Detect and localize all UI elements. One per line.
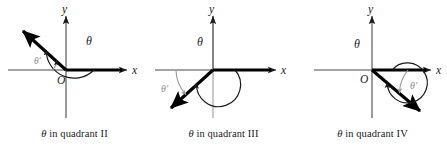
x-axis-label: x xyxy=(280,64,287,76)
terminal-side-ray xyxy=(23,31,66,70)
panel-caption: θ in quadrant III xyxy=(149,128,298,139)
panel-quadrant-4: θ θ′ O x y θ in quadrant IV xyxy=(298,0,447,154)
panel-caption: θ in quadrant II xyxy=(0,128,149,139)
theta-label: θ xyxy=(197,35,203,49)
diagram-quadrant-2: θ θ′ O x y xyxy=(0,0,149,126)
caption-text: in quadrant III xyxy=(194,128,259,139)
diagram-quadrant-4: θ θ′ O x y xyxy=(298,0,447,126)
theta-prime-label: θ′ xyxy=(34,56,42,66)
y-axis-label: y xyxy=(208,3,215,16)
theta-prime-label: θ′ xyxy=(161,83,169,94)
theta-arc xyxy=(46,50,94,78)
reference-angle-figure: θ θ′ O x y θ in quadrant II xyxy=(0,0,447,154)
reference-angle-arc xyxy=(400,70,408,93)
panel-quadrant-2: θ θ′ O x y θ in quadrant II xyxy=(0,0,149,154)
origin-label: O xyxy=(360,73,369,85)
terminal-side-ray xyxy=(171,70,213,108)
diagram-quadrant-3: θ θ′ x y xyxy=(149,0,298,126)
theta-arc xyxy=(197,70,241,107)
origin-label: O xyxy=(57,74,66,86)
panel-caption: θ in quadrant IV xyxy=(298,128,447,139)
theta-prime-label: θ′ xyxy=(410,80,418,91)
y-axis-label: y xyxy=(61,3,68,16)
theta-label: θ xyxy=(86,34,92,48)
panel-quadrant-3: θ θ′ x y θ in quadrant III xyxy=(149,0,298,154)
theta-label: θ xyxy=(354,37,360,51)
caption-text: in quadrant IV xyxy=(342,128,407,139)
reference-angle-arc xyxy=(53,61,57,71)
y-axis-label: y xyxy=(367,3,374,16)
reference-angle-arc xyxy=(176,70,186,95)
x-axis-label: x xyxy=(435,64,442,76)
caption-text: in quadrant II xyxy=(46,128,107,139)
x-axis-label: x xyxy=(131,64,138,76)
